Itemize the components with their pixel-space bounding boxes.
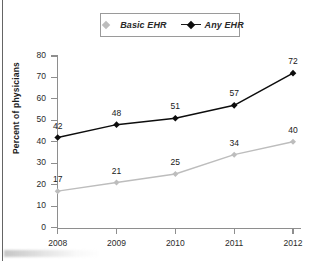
data-point-label: 42 [43,121,73,131]
data-point-marker [113,121,120,128]
data-point-marker [290,70,297,77]
data-point-marker [172,115,179,122]
plot-series-layer [0,0,310,261]
data-point-marker [54,134,61,141]
chart-figure: Basic EHR Any EHR Percent of physicians … [0,0,310,261]
data-point-label: 21 [102,166,132,176]
data-point-marker [55,188,61,194]
data-point-marker [231,102,238,109]
data-point-label: 57 [219,88,249,98]
data-point-label: 40 [278,125,308,135]
data-point-marker [231,152,237,158]
data-point-label: 17 [43,174,73,184]
data-point-label: 34 [219,138,249,148]
data-point-label: 25 [160,157,190,167]
data-point-marker [114,180,120,186]
data-point-marker [290,139,296,145]
data-point-marker [172,171,178,177]
data-point-label: 48 [102,108,132,118]
data-point-label: 72 [278,56,308,66]
data-point-label: 51 [160,101,190,111]
